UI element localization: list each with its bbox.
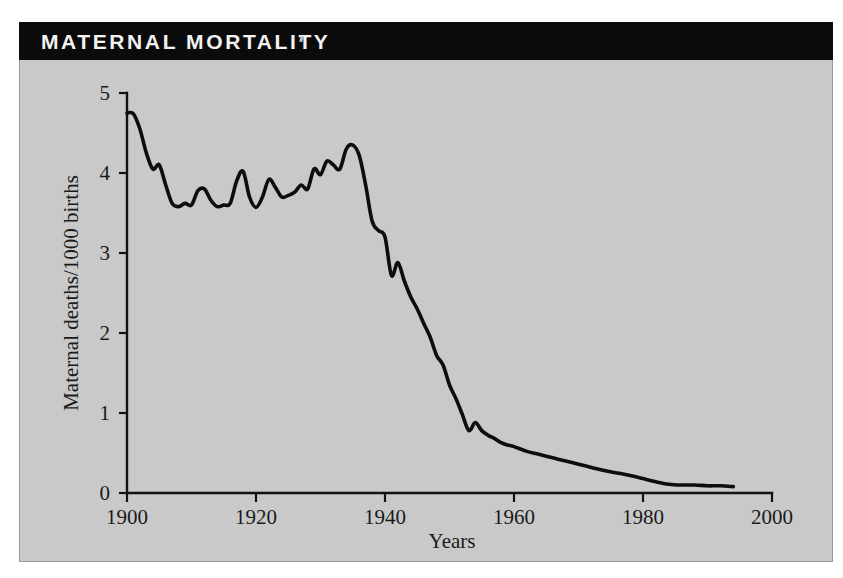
x-tick-label: 1960 bbox=[493, 505, 535, 529]
x-axis-title: Years bbox=[429, 529, 476, 553]
x-tick-label: 1920 bbox=[235, 505, 277, 529]
y-axis-title: Maternal deaths/1000 births bbox=[59, 175, 83, 411]
x-tick-label: 2000 bbox=[751, 505, 793, 529]
ticks-group bbox=[119, 93, 772, 502]
y-tick-label: 5 bbox=[100, 81, 111, 105]
x-tick-label: 1980 bbox=[622, 505, 664, 529]
y-tick-label: 3 bbox=[100, 241, 111, 265]
y-tick-label: 2 bbox=[100, 321, 111, 345]
data-series-line bbox=[127, 112, 733, 486]
tick-labels-group: 012345190019201940196019802000 bbox=[100, 81, 794, 529]
chart-plot: 012345190019201940196019802000 Years Mat… bbox=[0, 0, 843, 578]
y-tick-label: 1 bbox=[100, 401, 111, 425]
x-tick-label: 1900 bbox=[106, 505, 148, 529]
axis-spine bbox=[127, 93, 772, 493]
x-tick-label: 1940 bbox=[364, 505, 406, 529]
y-tick-label: 0 bbox=[100, 481, 111, 505]
data-series-group bbox=[127, 112, 733, 486]
y-tick-label: 4 bbox=[100, 161, 111, 185]
axes-group bbox=[127, 93, 772, 493]
figure-container: MATERNAL MORTALITY 012345190019201940196… bbox=[0, 0, 843, 578]
